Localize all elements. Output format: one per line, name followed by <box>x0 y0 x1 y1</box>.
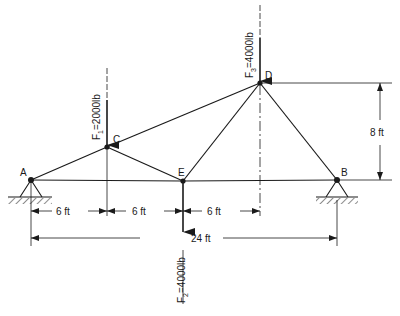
joint-C <box>104 144 109 149</box>
dimension-label-seg1: 6 ft <box>56 206 70 217</box>
joint-B <box>334 177 340 183</box>
node-label-D: D <box>265 70 272 81</box>
member-CE <box>107 147 183 181</box>
joint-D <box>257 80 262 85</box>
dimension-label-height: 8 ft <box>370 127 384 138</box>
force-label-F3: F3=4000lb <box>244 32 257 78</box>
dimension-label-seg2: 6 ft <box>132 206 146 217</box>
member-DB <box>260 83 337 180</box>
node-label-B: B <box>341 167 348 178</box>
node-label-A: A <box>20 167 27 178</box>
member-ED <box>183 83 260 181</box>
joint-A <box>28 177 34 183</box>
force-label-F2: F2=4000lb <box>176 257 189 303</box>
joint-E <box>180 178 185 183</box>
force-label-F1: F1=2000lb <box>91 94 104 140</box>
truss-diagram: 6 ft 6 ft 6 ft 24 ft 8 ft F1=2000lb F3=4… <box>0 0 400 316</box>
member-AC <box>31 147 107 180</box>
node-label-E: E <box>178 167 185 178</box>
dimension-label-seg3: 6 ft <box>207 206 221 217</box>
support-A <box>8 180 52 204</box>
dimension-label-span: 24 ft <box>191 233 211 244</box>
node-label-C: C <box>113 134 120 145</box>
member-CD <box>107 83 260 147</box>
